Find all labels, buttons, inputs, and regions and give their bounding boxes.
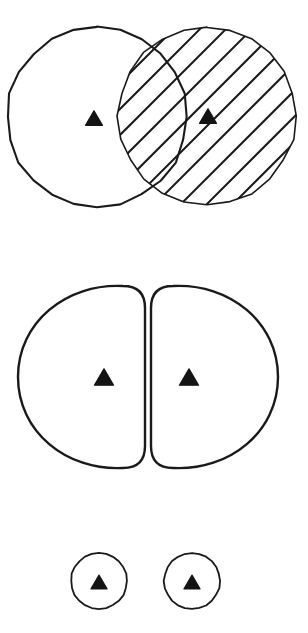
left-triangle-marker bbox=[86, 111, 103, 126]
left-half-triangle-marker bbox=[95, 369, 114, 385]
figure-container bbox=[0, 0, 308, 633]
hatch-line bbox=[88, 0, 308, 141]
right-half-triangle-marker bbox=[180, 369, 199, 385]
panel-overlapping-circles bbox=[8, 0, 308, 427]
figure-canvas bbox=[0, 0, 308, 633]
right-triangle-marker bbox=[200, 109, 217, 124]
hatch-line bbox=[88, 111, 308, 349]
hatch-line bbox=[88, 163, 308, 401]
hatch-line bbox=[88, 33, 308, 271]
right-circle-hatching bbox=[88, 0, 308, 427]
hatch-line bbox=[88, 189, 308, 427]
panel-small-circles bbox=[71, 553, 220, 609]
left-half-shape bbox=[18, 286, 145, 468]
right-half-shape bbox=[151, 286, 278, 468]
panel-split-halves bbox=[18, 286, 278, 468]
small-right-triangle-marker bbox=[184, 575, 200, 589]
hatch-line bbox=[88, 0, 308, 89]
small-left-triangle-marker bbox=[91, 575, 107, 589]
hatch-line bbox=[88, 7, 308, 245]
